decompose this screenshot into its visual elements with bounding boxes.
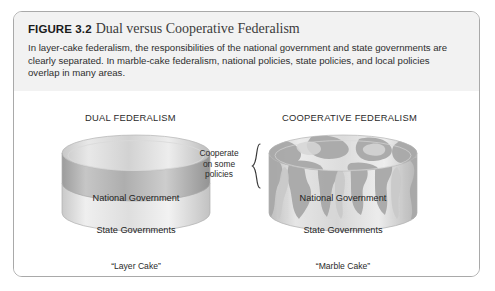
layer-cake-illustration: National Government State Governments “L… — [56, 127, 216, 247]
figure-illustration-area: DUAL FEDERALISM COOPERATIVE FEDERALISM — [14, 91, 479, 276]
marble-cake-label-national-government: National Government — [263, 193, 423, 203]
curly-brace-icon — [251, 143, 263, 189]
cooperate-annotation-line-1: Cooperate — [190, 148, 248, 159]
panel-heading-cooperative-federalism: COOPERATIVE FEDERALISM — [282, 112, 417, 123]
figure-description: In layer-cake federalism, the responsibi… — [28, 42, 458, 80]
cooperate-annotation-line-2: on some — [190, 159, 248, 170]
layer-cake-label-state-governments: State Governments — [56, 225, 216, 235]
cooperate-annotation-line-3: policies — [190, 169, 248, 180]
layer-cake-label-national-government: National Government — [56, 193, 216, 203]
panel-heading-dual-federalism: DUAL FEDERALISM — [85, 112, 176, 123]
marble-cake-caption: “Marble Cake” — [263, 261, 423, 271]
figure-number-label: FIGURE 3.2 — [28, 23, 92, 35]
marble-cake-illustration: National Government State Governments “M… — [263, 127, 423, 247]
cooperate-annotation: Cooperate on some policies — [190, 148, 248, 180]
figure-title: FIGURE 3.2Dual versus Cooperative Federa… — [28, 21, 465, 37]
marble-cake-label-state-governments: State Governments — [263, 225, 423, 235]
layer-cake-caption: “Layer Cake” — [56, 261, 216, 271]
figure-container: FIGURE 3.2Dual versus Cooperative Federa… — [13, 11, 480, 277]
figure-header: FIGURE 3.2Dual versus Cooperative Federa… — [14, 12, 479, 91]
figure-name: Dual versus Cooperative Federalism — [96, 21, 300, 36]
